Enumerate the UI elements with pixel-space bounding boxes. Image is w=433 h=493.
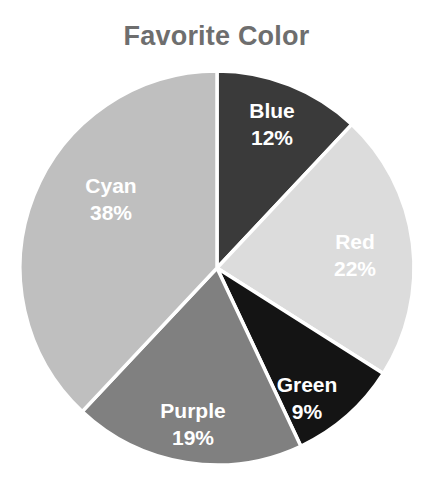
pie-slice-label-green: Green bbox=[277, 373, 338, 396]
pie-slice-label-red: Red bbox=[335, 230, 375, 253]
pie-slice-value-cyan: 38% bbox=[90, 201, 132, 224]
pie-slice-value-red: 22% bbox=[334, 257, 376, 280]
pie-slice-label-cyan: Cyan bbox=[85, 174, 136, 197]
pie-slice-value-green: 9% bbox=[292, 400, 323, 423]
pie-slice-value-purple: 19% bbox=[172, 426, 214, 449]
pie-chart-canvas: Blue12%Red22%Green9%Purple19%Cyan38% bbox=[0, 0, 433, 493]
pie-slice-label-blue: Blue bbox=[249, 99, 295, 122]
pie-chart-figure: Favorite Color Blue12%Red22%Green9%Purpl… bbox=[0, 0, 433, 493]
pie-slice-value-blue: 12% bbox=[251, 126, 293, 149]
pie-slice-label-purple: Purple bbox=[160, 399, 225, 422]
